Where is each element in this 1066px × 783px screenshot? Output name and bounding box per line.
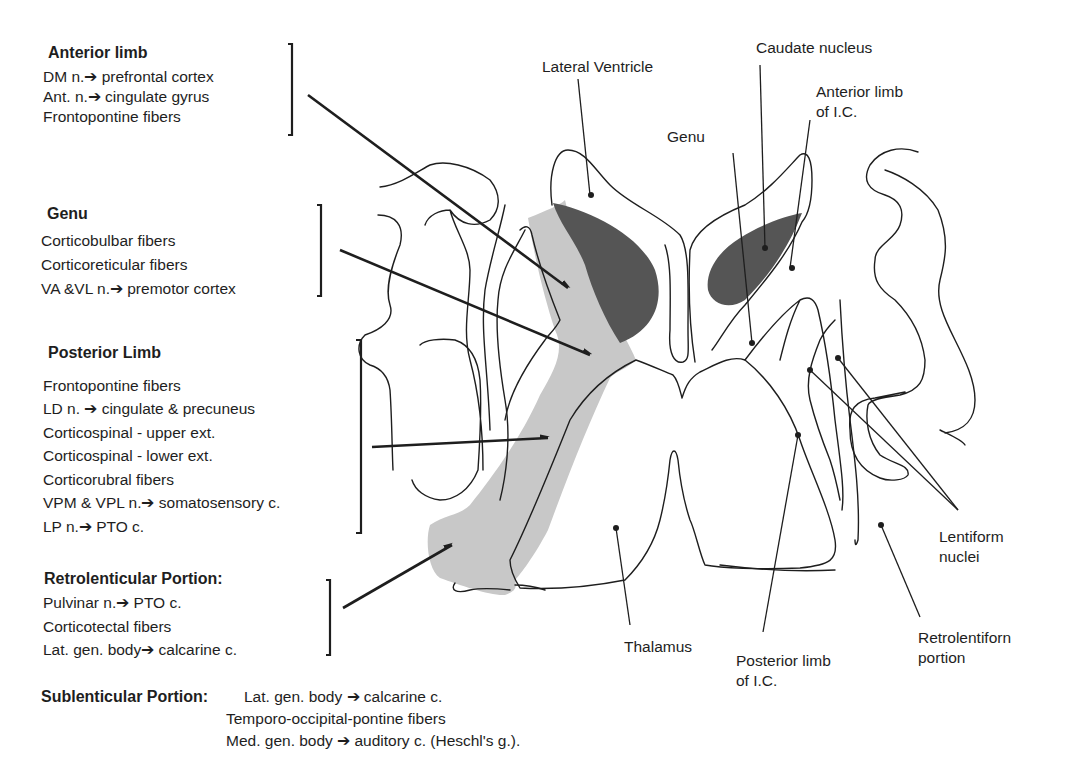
label-retrolentiform-portion: Retrolentiforn portion	[918, 628, 1011, 668]
anterior-limb-heading: Anterior limb	[48, 42, 148, 63]
leader-lines	[578, 65, 958, 632]
sublenticular-item: Med. gen. body ➔ auditory c. (Heschl's g…	[226, 730, 520, 751]
arrow-retrolenticular	[343, 545, 452, 608]
label-genu: Genu	[667, 127, 705, 147]
label-lateral-ventricle: Lateral Ventricle	[542, 57, 653, 77]
sublenticular-item: Lat. gen. body ➔ calcarine c.	[244, 686, 442, 707]
retrolenticular-item: Corticotectal fibers	[43, 616, 171, 637]
label-anterior-limb-ic: Anterior limb of I.C.	[816, 82, 903, 122]
left-cortex-outline	[359, 163, 525, 500]
posterior-limb-item: LD n. ➔ cingulate & precuneus	[43, 398, 255, 419]
posterior-limb-heading: Posterior Limb	[48, 342, 161, 363]
label-caudate-nucleus: Caudate nucleus	[756, 38, 872, 58]
arrow-anterior-limb	[308, 95, 568, 288]
posterior-limb-item: Corticospinal - lower ext.	[43, 445, 213, 466]
sublenticular-item: Temporo-occipital-pontine fibers	[226, 708, 446, 729]
caudate-right-shaded	[708, 213, 802, 305]
label-lentiform-nuclei: Lentiform nuclei	[939, 527, 1004, 567]
genu-item: VA &VL n.➔ premotor cortex	[41, 278, 236, 299]
label-thalamus: Thalamus	[624, 637, 692, 657]
posterior-limb-item: Frontopontine fibers	[43, 375, 181, 396]
genu-heading: Genu	[47, 203, 88, 224]
anterior-limb-item: Frontopontine fibers	[43, 106, 181, 127]
section-brackets	[288, 44, 361, 655]
anterior-limb-item: Ant. n.➔ cingulate gyrus	[43, 86, 209, 107]
genu-item: Corticobulbar fibers	[41, 230, 175, 251]
lentiform-nucleus-outline	[745, 298, 858, 544]
sublenticular-heading: Sublenticular Portion:	[41, 686, 208, 707]
label-posterior-limb-ic: Posterior limb of I.C.	[736, 651, 831, 691]
genu-item: Corticoreticular fibers	[41, 254, 187, 275]
anterior-limb-item: DM n.➔ prefrontal cortex	[43, 66, 214, 87]
retrolenticular-item: Lat. gen. body➔ calcarine c.	[43, 639, 237, 660]
retrolenticular-item: Pulvinar n.➔ PTO c.	[43, 592, 181, 613]
posterior-limb-item: LP n.➔ PTO c.	[43, 516, 144, 537]
posterior-limb-item: Corticospinal - upper ext.	[43, 422, 215, 443]
posterior-limb-item: VPM & VPL n.➔ somatosensory c.	[43, 492, 280, 513]
right-cortex-outline	[850, 149, 975, 480]
retrolenticular-heading: Retrolenticular Portion:	[44, 568, 223, 589]
posterior-limb-item: Corticorubral fibers	[43, 469, 174, 490]
